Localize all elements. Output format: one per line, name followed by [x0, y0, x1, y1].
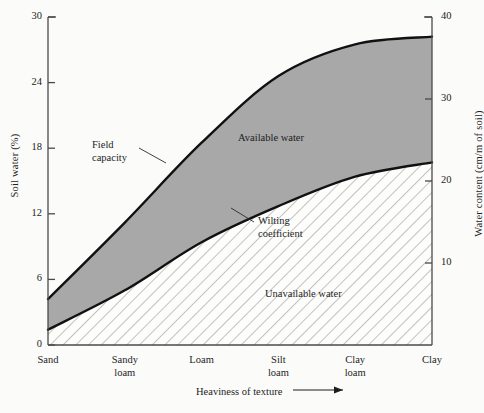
x-axis-title-text: Heaviness of texture — [196, 386, 282, 397]
y-tick-label-left: 30 — [8, 10, 42, 21]
y-tick-label-right: 10 — [441, 256, 471, 267]
y-tick-label-right: 30 — [441, 92, 471, 103]
y-tick-label-left: 0 — [8, 338, 42, 349]
annotation-field-capacity: Field capacity — [92, 138, 127, 164]
annotation-wilting-coefficient: Wilting coefficient — [258, 214, 303, 240]
y-tick-label-left: 12 — [8, 207, 42, 218]
annotation-available-water: Available water — [238, 131, 304, 144]
y-tick-label-left: 6 — [8, 272, 42, 283]
x-axis-category-1: Sandy loam — [85, 354, 165, 379]
annotation-unavailable-water: Unavailable water — [265, 287, 342, 300]
y-tick-label-right: 20 — [441, 174, 471, 185]
heaviness-arrow-icon — [293, 387, 343, 394]
x-axis-category-2: Loam — [162, 354, 242, 367]
y-axis-right-title: Water content (cm/m of soil) — [473, 84, 484, 264]
x-axis-category-3: Silt loam — [238, 354, 318, 379]
x-axis-category-4: Clay loam — [315, 354, 395, 379]
y-tick-label-left: 24 — [8, 76, 42, 87]
y-tick-label-right: 40 — [441, 10, 471, 21]
leader-line-field-capacity — [139, 148, 166, 163]
x-axis-title: Heaviness of texture — [196, 386, 282, 397]
y-tick-label-left: 18 — [8, 141, 42, 152]
x-axis-category-5: Clay — [392, 354, 472, 367]
x-axis-category-0: Sand — [8, 354, 88, 367]
